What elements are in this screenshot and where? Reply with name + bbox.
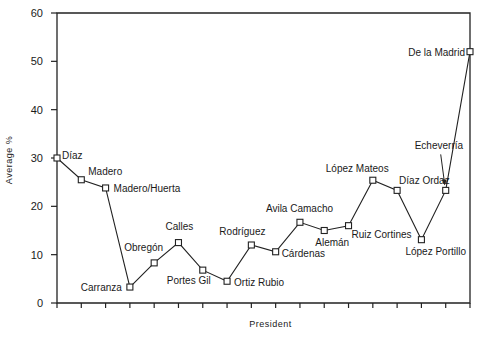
line-chart: 0102030405060PresidentAverage %DíazMader…	[0, 0, 479, 337]
data-point-marker	[54, 155, 60, 161]
y-tick-label: 50	[31, 55, 43, 67]
y-tick-label: 40	[31, 104, 43, 116]
y-tick-label: 20	[31, 200, 43, 212]
data-point-label: Echeverría	[415, 140, 464, 151]
data-point-marker	[370, 177, 376, 183]
data-point-label: Carranza	[81, 282, 123, 293]
data-point-label: Calles	[165, 221, 193, 232]
data-point-marker	[224, 278, 230, 284]
data-point-marker	[127, 284, 133, 290]
data-point-label: Rodríguez	[219, 226, 265, 237]
data-point-marker	[103, 185, 109, 191]
data-point-label: Madero	[88, 166, 122, 177]
data-point-label: Alemán	[315, 237, 349, 248]
data-point-marker	[151, 260, 157, 266]
data-point-marker	[467, 49, 473, 55]
data-point-label: Díaz	[62, 150, 83, 161]
data-point-label: Avila Camacho	[266, 203, 334, 214]
data-point-label: Cárdenas	[282, 248, 325, 259]
y-tick-label: 10	[31, 249, 43, 261]
x-axis-label: President	[249, 319, 292, 329]
data-point-marker	[297, 219, 303, 225]
data-point-label: López Mateos	[326, 163, 389, 174]
y-tick-label: 0	[37, 297, 43, 309]
data-point-marker	[321, 228, 327, 234]
data-point-label: Ortiz Rubio	[234, 277, 284, 288]
data-point-marker	[394, 187, 400, 193]
data-point-marker	[273, 249, 279, 255]
data-point-label: Madero/Huerta	[114, 183, 181, 194]
data-point-label: Ruiz Cortines	[352, 229, 412, 240]
data-point-marker	[175, 240, 181, 246]
y-axis-label: Average %	[4, 136, 14, 184]
data-point-label: Díaz Ordaz	[399, 175, 450, 186]
y-tick-label: 30	[31, 152, 43, 164]
data-point-marker	[418, 237, 424, 243]
data-point-marker	[248, 242, 254, 248]
data-point-label: De la Madrid	[408, 47, 465, 58]
data-point-marker	[78, 177, 84, 183]
data-point-label: López Portillo	[405, 246, 466, 257]
data-point-label: Portes Gil	[167, 275, 211, 286]
data-point-marker	[200, 267, 206, 273]
data-point-marker	[443, 187, 449, 193]
data-point-label: Obregón	[124, 242, 163, 253]
y-tick-label: 60	[31, 7, 43, 19]
